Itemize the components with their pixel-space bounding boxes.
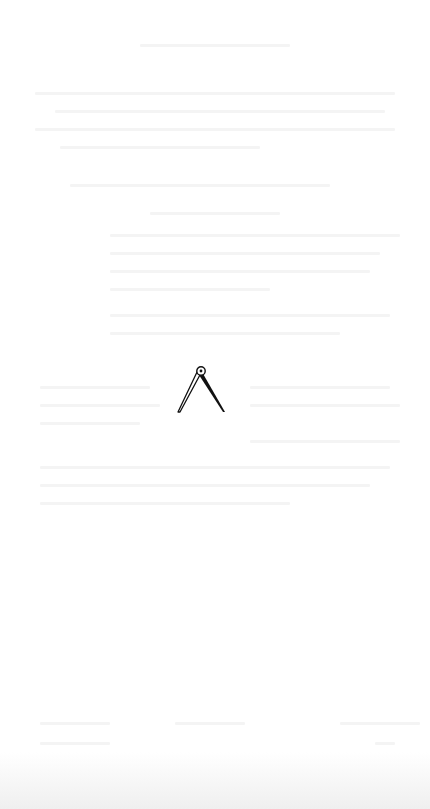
bleed-through-line	[40, 484, 370, 487]
bleed-through-line	[40, 422, 140, 425]
bleed-through-line	[110, 270, 370, 273]
bleed-through-line	[140, 44, 290, 47]
bleed-through-line	[40, 466, 390, 469]
bleed-through-line	[340, 722, 420, 725]
bleed-through-line	[110, 252, 380, 255]
bleed-through-line	[175, 722, 245, 725]
bleed-through-line	[40, 404, 160, 407]
bleed-through-line	[250, 404, 400, 407]
bleed-through-line	[250, 386, 390, 389]
compass-divider-icon	[176, 364, 228, 414]
bleed-through-line	[110, 234, 400, 237]
bleed-through-line	[375, 742, 395, 745]
bleed-through-line	[35, 92, 395, 95]
blank-page	[0, 0, 430, 809]
bleed-through-line	[150, 212, 280, 215]
bleed-through-line	[40, 742, 110, 745]
bleed-through-line	[35, 128, 395, 131]
bleed-through-line	[110, 288, 270, 291]
bleed-through-line	[55, 110, 385, 113]
bleed-through-line	[250, 440, 400, 443]
bleed-through-line	[40, 502, 290, 505]
bleed-through-line	[40, 386, 150, 389]
bleed-through-line	[110, 332, 340, 335]
bleed-through-line	[40, 722, 110, 725]
bleed-through-line	[70, 184, 330, 187]
bleed-through-line	[60, 146, 260, 149]
bleed-through-line	[110, 314, 390, 317]
